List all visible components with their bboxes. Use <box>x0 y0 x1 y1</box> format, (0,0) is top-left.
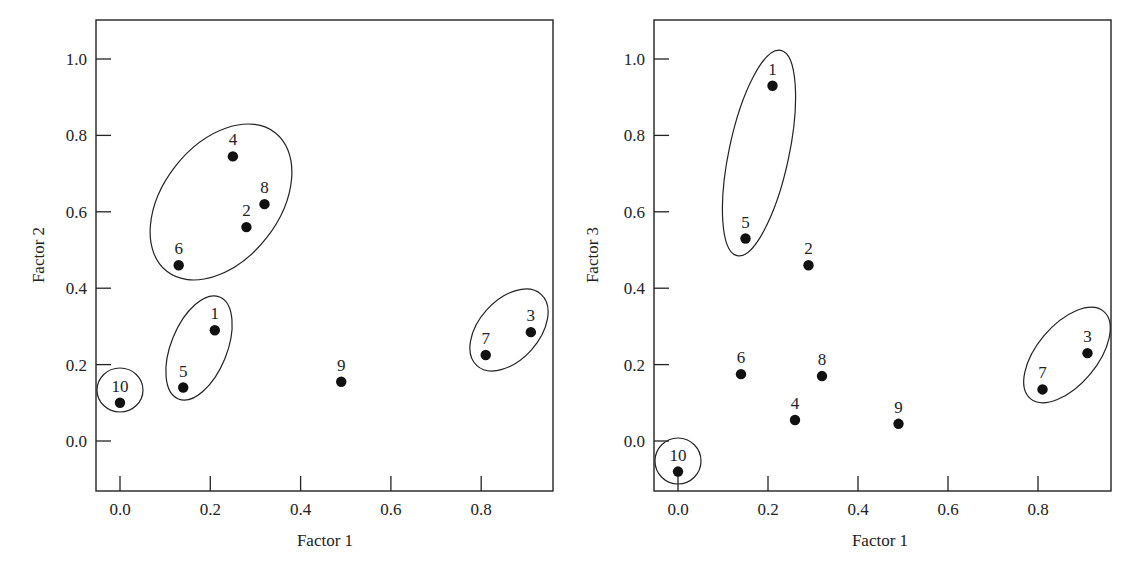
y-tick-label: 0.2 <box>624 356 645 375</box>
y-tick-label: 0.0 <box>624 432 645 451</box>
figure: 0.00.20.40.60.81.0 0.00.20.40.60.8 12345… <box>0 0 1129 565</box>
data-point-label: 10 <box>670 446 687 465</box>
data-point-label: 5 <box>741 213 750 232</box>
data-point-5 <box>178 382 188 392</box>
y-tick-label: 0.8 <box>66 126 87 145</box>
data-point-label: 2 <box>804 239 813 258</box>
data-point-7 <box>481 350 491 360</box>
data-point-label: 4 <box>791 394 800 413</box>
data-point-10 <box>673 466 683 476</box>
x-tick-label: 0.4 <box>290 500 312 519</box>
data-point-label: 8 <box>818 350 827 369</box>
y-tick-label: 0.6 <box>66 203 87 222</box>
data-point-label: 6 <box>174 239 183 258</box>
x-tick-label: 0.0 <box>667 500 688 519</box>
plot-frame <box>654 20 1111 491</box>
data-point-label: 7 <box>1038 363 1047 382</box>
data-point-label: 4 <box>229 130 238 149</box>
data-point-8 <box>259 199 269 209</box>
x-tick-label: 0.2 <box>757 500 778 519</box>
y-tick-label: 0.8 <box>624 126 645 145</box>
x-axis-label: Factor 1 <box>852 531 908 550</box>
data-point-label: 1 <box>768 60 777 79</box>
cluster-ellipse-3-7 <box>1007 292 1126 418</box>
x-axis-ticks: 0.00.20.40.60.8 <box>667 476 1048 519</box>
y-axis-ticks: 0.00.20.40.60.81.0 <box>66 50 111 451</box>
data-point-8 <box>817 371 827 381</box>
y-tick-label: 0.4 <box>66 279 88 298</box>
data-point-6 <box>173 260 183 270</box>
data-point-label: 3 <box>527 306 536 325</box>
data-points: 12345678910 <box>112 130 537 408</box>
data-point-label: 3 <box>1083 327 1092 346</box>
x-tick-label: 0.4 <box>847 500 869 519</box>
x-tick-label: 0.8 <box>1027 500 1048 519</box>
y-axis-ticks: 0.00.20.40.60.81.0 <box>624 50 669 451</box>
data-point-label: 1 <box>211 304 220 323</box>
cluster-ellipse-3-7 <box>455 274 564 385</box>
y-tick-label: 0.4 <box>624 279 646 298</box>
cluster-ellipse-1-5 <box>708 44 810 262</box>
data-point-9 <box>336 377 346 387</box>
x-axis-label: Factor 1 <box>297 531 353 550</box>
x-tick-label: 0.2 <box>200 500 221 519</box>
scatter-plot-factor1-vs-factor2: 0.00.20.40.60.81.0 0.00.20.40.60.8 12345… <box>29 20 563 550</box>
data-point-label: 9 <box>894 398 903 417</box>
data-point-label: 9 <box>337 356 346 375</box>
data-point-label: 10 <box>112 377 129 396</box>
data-points: 12345678910 <box>670 60 1093 477</box>
y-tick-label: 1.0 <box>66 50 87 69</box>
x-axis-ticks: 0.00.20.40.60.8 <box>109 476 491 519</box>
data-point-1 <box>767 81 777 91</box>
x-tick-label: 0.6 <box>937 500 958 519</box>
data-point-9 <box>893 419 903 429</box>
y-axis-label: Factor 2 <box>29 227 48 283</box>
scatter-plot-factor1-vs-factor3: 0.00.20.40.60.81.0 0.00.20.40.60.8 12345… <box>583 20 1127 550</box>
y-tick-label: 0.0 <box>66 432 87 451</box>
data-point-label: 5 <box>179 362 188 381</box>
cluster-ellipses <box>655 44 1127 484</box>
data-point-5 <box>740 233 750 243</box>
x-tick-label: 0.0 <box>109 500 130 519</box>
data-point-3 <box>526 327 536 337</box>
data-point-2 <box>803 260 813 270</box>
plot-frame <box>96 20 553 491</box>
data-point-label: 2 <box>242 201 251 220</box>
data-point-3 <box>1082 348 1092 358</box>
y-axis-label: Factor 3 <box>583 227 602 283</box>
data-point-10 <box>115 398 125 408</box>
x-tick-label: 0.6 <box>380 500 401 519</box>
data-point-1 <box>210 325 220 335</box>
y-tick-label: 0.6 <box>624 203 645 222</box>
y-tick-label: 1.0 <box>624 50 645 69</box>
x-tick-label: 0.8 <box>471 500 492 519</box>
data-point-4 <box>790 415 800 425</box>
data-point-label: 8 <box>260 178 269 197</box>
cluster-ellipse-1-5 <box>152 287 245 410</box>
data-point-label: 6 <box>737 348 746 367</box>
cluster-ellipse-2-4-6-8 <box>121 97 321 307</box>
cluster-ellipses <box>97 97 563 412</box>
y-tick-label: 0.2 <box>66 356 87 375</box>
data-point-label: 7 <box>481 329 490 348</box>
data-point-2 <box>241 222 251 232</box>
data-point-4 <box>228 151 238 161</box>
data-point-7 <box>1037 384 1047 394</box>
data-point-6 <box>736 369 746 379</box>
